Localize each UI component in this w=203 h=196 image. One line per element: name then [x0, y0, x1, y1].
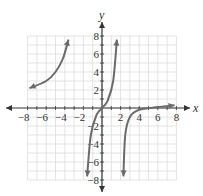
y-axis-label: y [98, 8, 105, 22]
y-arrow-up-icon [99, 22, 105, 28]
y-tick-label: 2 [94, 84, 100, 96]
x-tick-label: −8 [18, 111, 30, 123]
x-arrow-left-icon [6, 105, 12, 111]
x-arrow-right-icon [184, 105, 190, 111]
y-tick-label: 8 [94, 30, 100, 42]
x-tick-label: 8 [174, 111, 180, 123]
x-tick-label: −4 [55, 111, 67, 123]
y-tick-label: 6 [94, 48, 100, 60]
y-tick-label: −8 [87, 174, 99, 186]
x-tick-label: 2 [118, 111, 124, 123]
x-tick-label: 6 [155, 111, 161, 123]
x-tick-label: −2 [74, 111, 86, 123]
graph: −8−6−4−224688642−2−4−6−8xy [0, 0, 203, 196]
y-tick-label: 4 [94, 66, 100, 78]
x-axis-label: x [192, 101, 199, 115]
x-tick-label: −6 [36, 111, 48, 123]
curve-branch-right [121, 103, 175, 176]
curve-arrow-icon [113, 40, 119, 46]
x-tick-label: 4 [136, 111, 142, 123]
curve-arrow-icon [121, 170, 127, 176]
y-arrow-down-icon [99, 186, 105, 192]
